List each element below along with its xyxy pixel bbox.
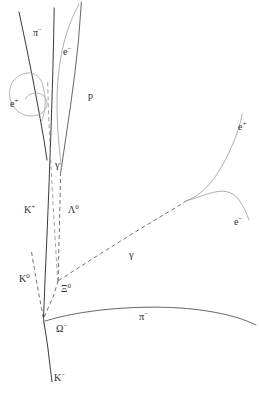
label-gamma-upper: γ xyxy=(55,160,60,171)
event-tracks-svg xyxy=(0,0,259,393)
track-pi-minus-lower xyxy=(45,307,256,325)
track-xi-zero xyxy=(44,281,58,317)
label-e-plus-right: e+ xyxy=(238,122,246,132)
label-k-plus: K+ xyxy=(24,205,35,215)
track-k-zero xyxy=(31,250,43,318)
label-pi-minus-top: π− xyxy=(33,28,42,38)
track-e-plus-right xyxy=(186,114,242,201)
label-e-plus-spiral: e+ xyxy=(10,99,18,109)
track-lambda-zero xyxy=(58,172,60,281)
track-e-minus-top xyxy=(57,4,79,168)
label-lambda-zero: Λ0 xyxy=(68,205,79,215)
track-proton xyxy=(61,2,82,172)
label-xi-zero: Ξ0 xyxy=(61,284,71,294)
label-k-minus: K− xyxy=(54,373,65,383)
track-k-minus-incoming xyxy=(44,323,52,382)
track-k-plus xyxy=(44,8,55,317)
label-gamma-lower: γ xyxy=(129,250,134,261)
label-e-minus-top: e− xyxy=(63,47,71,57)
label-pi-minus-lower: π− xyxy=(139,312,148,323)
label-proton: p xyxy=(88,91,93,101)
bubble-chamber-diagram: π− e− p e+ γ K+ Λ0 K0 Ξ0 Ω− K− γ e+ e− π… xyxy=(0,0,259,393)
label-e-minus-right: e− xyxy=(234,217,242,227)
label-omega-minus: Ω− xyxy=(56,324,67,334)
label-k-zero: K0 xyxy=(19,274,30,284)
